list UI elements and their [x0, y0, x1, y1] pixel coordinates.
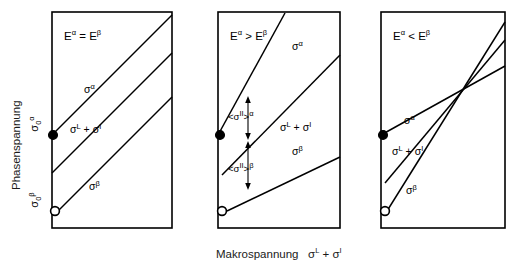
- y-axis-title: Phasenspannung: [10, 100, 22, 190]
- panel-greater-title: Eα > Eβ: [230, 28, 268, 42]
- panel-less-marker-sigma0-beta: [381, 207, 390, 216]
- stress-diagram: Phasenspannung σ0α σ0β Eα = Eβ: [0, 0, 516, 269]
- y-tick-sigma0-alpha-sup: α: [27, 116, 36, 121]
- panel-less-title-sup2: β: [426, 28, 431, 37]
- panel-equal-title-sup2: β: [97, 28, 102, 37]
- svg-text:σ0β: σ0β: [27, 192, 43, 208]
- x-axis-title-text: Makrospannung: [216, 248, 298, 260]
- y-tick-sigma0-beta: σ0β: [27, 192, 43, 208]
- panel-less-label-sigma-macro: σL + σI: [392, 144, 423, 157]
- panel-equal: Eα = Eβ σα σL + σI σβ: [49, 12, 172, 228]
- x-axis-title: Makrospannung σL + σI: [216, 246, 342, 260]
- panel-less-title: Eα < Eβ: [393, 28, 431, 42]
- y-tick-sigma0-alpha: σ0α: [27, 116, 43, 132]
- figure-root: Phasenspannung σ0α σ0β Eα = Eβ: [0, 0, 516, 269]
- panel-equal-marker-sigma0-alpha: [49, 131, 58, 140]
- y-tick-sigma0-beta-sup: β: [27, 192, 36, 197]
- svg-text:σ0α: σ0α: [27, 116, 43, 132]
- panel-greater-marker-sigma0-beta: [218, 207, 227, 216]
- panel-greater: Eα > Eβ σα σL + σI σβ <σII>α: [216, 12, 340, 228]
- panel-greater-marker-sigma0-alpha: [216, 131, 225, 140]
- panel-greater-label-sigma-macro: σL + σI: [280, 120, 311, 133]
- panel-greater-title-sup2: β: [263, 28, 268, 37]
- panel-equal-title: Eα = Eβ: [64, 28, 102, 42]
- panel-less: Eα < Eβ σα σL + σI σβ: [379, 12, 505, 228]
- panel-equal-marker-sigma0-beta: [51, 207, 60, 216]
- panel-equal-label-sigma-macro: σL + σI: [70, 122, 101, 135]
- panel-less-marker-sigma0-alpha: [379, 131, 388, 140]
- panel-equal-frame: [52, 12, 172, 228]
